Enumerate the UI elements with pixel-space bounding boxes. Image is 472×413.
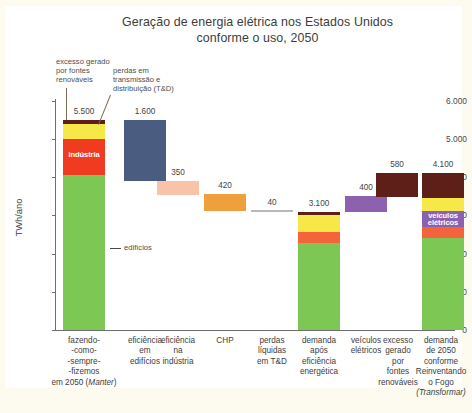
ytick-mark-5000 [52,139,56,140]
callout-renewable-line3: renováveis [56,75,112,84]
callout-td-losses: perdas em transmissão e distribuição (T&… [113,66,183,94]
x-axis-line [55,330,455,331]
callout-td-line3: distribuição (T&D) [113,84,183,93]
bar9-value-label: 4.100 [422,160,464,169]
cat4-l3: em T&D [247,357,297,367]
cat2-l2: na [153,346,203,356]
callout-td-line2: transmissão e [113,75,183,84]
bar1-segment-other [63,124,105,139]
bar9-segment-other [422,198,464,211]
bar-td-losses[interactable] [251,210,293,212]
cat0-l3: -sempre- [52,357,116,367]
bar9-segment-edificios [422,238,464,330]
bar1-segment-industria: indústria [63,139,105,175]
cat5-l4: energética [292,367,346,377]
bar6-segment-industria [298,232,340,243]
bar4-value-label: 420 [204,181,246,190]
ytick-mark-3000 [52,215,56,216]
bar-renewable-excess[interactable] [376,173,418,197]
bar-demand-after-efficiency[interactable] [298,212,340,330]
callout-renewable-line1: excesso gerado [56,57,112,66]
cat3-l1: CHP [200,336,250,346]
bar1-segment-edificios [63,175,105,330]
ytick-mark-4000 [52,177,56,178]
cat0-l1: fazendo- [52,336,116,346]
ytick-mark-0 [52,330,56,331]
callout-td-line1: perdas em [113,66,183,75]
bar9-segment-electric-vehicles: veículos elétricos [422,211,464,227]
cat-label-0: fazendo- -como- -sempre- -fizemos em 205… [52,336,116,388]
bar5-value-label: 40 [251,198,293,207]
bar6-value-label: 3.100 [298,199,340,208]
cat0-l5: em 2050 (Manter) [51,378,116,387]
ytick-label-5000: 5.000 [421,134,467,144]
y-axis-label: TWh/ano [13,183,24,253]
cat8-l6: (Transformar) [416,388,465,397]
bar8-value-label: 580 [376,160,418,169]
ytick-mark-1000 [52,292,56,293]
bar1-value-label: 5.500 [63,107,105,116]
cat4-l1: perdas [247,336,297,346]
ytick-mark-2000 [52,254,56,255]
bar-efficiency-industry[interactable] [157,181,199,195]
bar6-segment-edificios [298,243,340,330]
callout-buildings-label: edifícios [124,243,184,252]
bar3-value-label: 350 [157,168,199,177]
cat-label-2: eficiência na indústria [153,336,203,367]
callout-buildings-leader [110,248,121,249]
bar-electric-vehicles[interactable] [345,196,387,212]
cat8-l4: Reinventando [408,367,472,377]
cat-label-5: demanda após eficiência energética [292,336,346,378]
ytick-label-6000: 6.000 [421,96,467,106]
cat0-l2: -como- [52,346,116,356]
bar2-value-label: 1.600 [124,107,166,116]
cat8-l2: de 2050 [408,346,472,356]
cat8-l3: conforme [408,357,472,367]
bar-demand-2050-reinventing-fire[interactable]: veículos elétricos [422,173,464,330]
cat-label-4: perdas líquidas em T&D [247,336,297,367]
cat-label-8: demanda de 2050 conforme Reinventando o … [408,336,472,398]
cat8-l1: demanda [408,336,472,346]
bar9-segment-industria [422,227,464,238]
cat0-l4: -fizemos [52,367,116,377]
callout-renewable-excess: excesso gerado por fontes renováveis [56,57,112,85]
cat5-l1: demanda [292,336,346,346]
bar-chp[interactable] [204,194,246,211]
ytick-mark-6000 [52,101,56,102]
bar9-segment-top [422,173,464,198]
bar1-industria-label: indústria [63,151,105,159]
cat5-l3: eficiência [292,357,346,367]
callout-renewable-leader [66,88,67,120]
cat2-l1: eficiência [153,336,203,346]
cat8-l5: o Fogo [408,378,472,388]
cat4-l2: líquidas [247,346,297,356]
cat2-l3: indústria [153,357,203,367]
bar6-segment-other [298,215,340,232]
bar-business-as-usual[interactable]: indústria [63,120,105,330]
cat5-l2: após [292,346,346,356]
callout-renewable-line2: por fontes [56,66,112,75]
cat-label-3: CHP [200,336,250,346]
callout-buildings: edifícios [124,243,184,252]
